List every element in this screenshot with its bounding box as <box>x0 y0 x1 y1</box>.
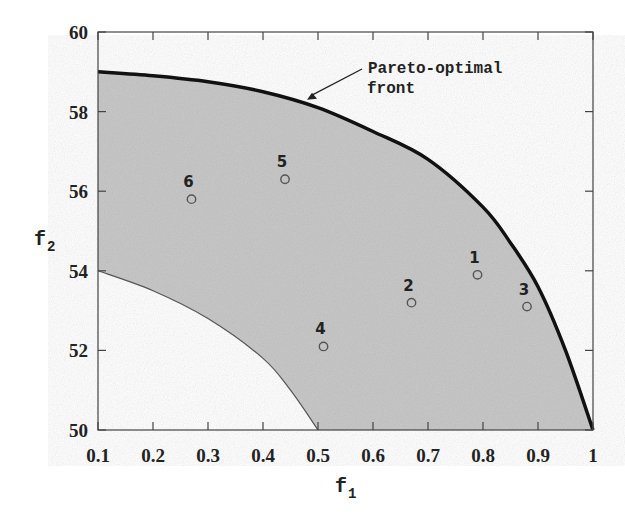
x-axis-label: f <box>335 475 347 498</box>
x-tick-label: 0.4 <box>251 445 275 466</box>
y-tick-label: 58 <box>69 102 88 123</box>
y-tick-label: 52 <box>69 340 88 361</box>
x-tick-label: 0.7 <box>416 445 440 466</box>
y-tick-label: 54 <box>69 261 89 282</box>
y-tick-label: 60 <box>69 22 88 43</box>
annotation-text-line1: Pareto-optimal <box>368 60 502 78</box>
x-tick-label: 0.8 <box>471 445 495 466</box>
x-tick-label: 0.1 <box>86 445 110 466</box>
data-point-label: 1 <box>469 249 479 267</box>
x-tick-label: 0.6 <box>361 445 385 466</box>
x-tick-label: 1 <box>588 445 598 466</box>
scatter-chart: 123456 0.10.20.30.40.50.60.70.80.91 5052… <box>0 0 625 523</box>
x-tick-label: 0.9 <box>526 445 550 466</box>
y-tick-label: 50 <box>69 420 88 441</box>
feasible-region-fill <box>98 72 593 430</box>
x-tick-label: 0.3 <box>196 445 220 466</box>
pareto-annotation: Pareto-optimalfront <box>307 60 502 100</box>
data-point-label: 4 <box>315 320 325 338</box>
y-axis-label-subscript: 2 <box>47 239 55 255</box>
data-point-label: 2 <box>403 277 413 295</box>
y-tick-label: 56 <box>69 181 88 202</box>
x-tick-label: 0.2 <box>141 445 165 466</box>
annotation-arrow-line <box>311 69 362 96</box>
feasible-region <box>98 72 593 430</box>
data-point-label: 6 <box>183 173 193 191</box>
y-axis-label: f <box>34 228 46 251</box>
annotation-text-line2: front <box>367 80 415 98</box>
data-point-label: 5 <box>277 153 287 171</box>
x-axis-label-subscript: 1 <box>348 486 356 502</box>
data-point-label: 3 <box>519 281 529 299</box>
x-tick-label: 0.5 <box>306 445 330 466</box>
